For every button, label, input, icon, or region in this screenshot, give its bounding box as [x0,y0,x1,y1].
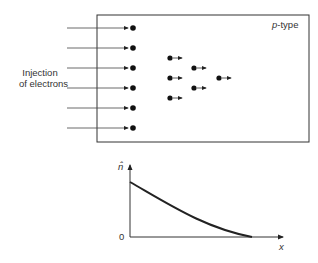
electron-6 [216,75,231,80]
injected-electrons [67,25,136,131]
y-axis-label: n̂ [118,161,123,172]
injection-arrow-5 [67,105,136,111]
injection-label: Injection of electrons [15,67,65,89]
p-type-region-box [97,15,309,142]
electron-2 [167,75,182,80]
diffusing-electrons [167,55,231,100]
injection-arrow-2 [67,45,136,51]
injection-label-line2: of electrons [19,78,65,89]
type-text: -type [277,19,298,30]
x-axis-label: x [279,241,284,252]
electron-1 [167,55,182,60]
electron-4 [191,65,206,70]
diagram-canvas [0,0,318,263]
injection-label-line1: Injection [15,67,65,78]
concentration-curve [130,182,252,237]
injection-arrow-1 [67,25,136,31]
p-type-label: p-type [272,19,298,30]
injection-arrow-4 [67,85,136,91]
injection-arrow-3 [67,65,136,71]
electron-5 [191,85,206,90]
electron-3 [167,95,182,100]
concentration-plot [130,165,283,237]
origin-label: 0 [119,231,124,242]
injection-arrow-6 [67,125,136,131]
